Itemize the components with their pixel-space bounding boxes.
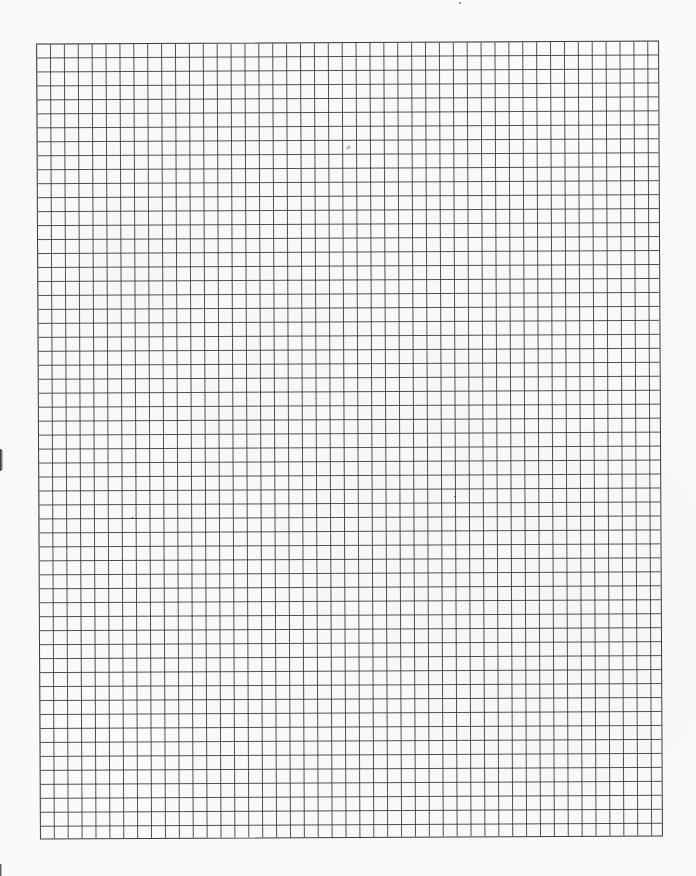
scan-speck [459,2,461,4]
hole-punch-edge [0,449,3,471]
graph-paper-page [0,0,696,876]
margin-edge-mark [0,864,2,876]
graph-grid [36,40,663,839]
